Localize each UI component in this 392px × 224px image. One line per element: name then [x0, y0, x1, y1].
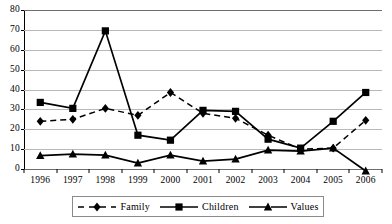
data-point-children-2003 — [264, 136, 271, 143]
x-tick-mark-1998 — [89, 169, 90, 173]
legend-label-values: Values — [291, 202, 319, 212]
x-tick-label-2002: 2002 — [226, 176, 246, 186]
x-tick-mark-2004 — [284, 169, 285, 173]
x-tick-label-2001: 2001 — [193, 176, 213, 186]
x-tick-mark-1999 — [121, 169, 122, 173]
x-tick-label-2006: 2006 — [356, 176, 376, 186]
chart-legend: FamilyChildrenValues — [72, 196, 324, 217]
data-point-family-1996 — [37, 117, 44, 126]
legend-label-family: Family — [120, 202, 150, 212]
diamond-marker-icon — [77, 201, 117, 213]
x-tick-label-2000: 2000 — [161, 176, 181, 186]
data-point-children-1998 — [102, 27, 109, 34]
y-tick-label-80: 80 — [10, 5, 20, 15]
x-tick-mark-1996 — [24, 169, 25, 173]
data-point-children-2006 — [362, 89, 369, 96]
y-tick-label-60: 60 — [10, 45, 20, 55]
data-point-family-1997 — [69, 115, 76, 124]
plot-area: 01020304050607080 1996199719981999200020… — [24, 10, 382, 169]
data-point-children-1999 — [134, 132, 141, 139]
series-children — [37, 27, 370, 151]
y-tick-label-30: 30 — [10, 105, 20, 115]
y-tick-label-0: 0 — [15, 164, 20, 174]
triangle-marker-icon — [248, 201, 288, 213]
x-tick-mark-2006 — [349, 169, 350, 173]
square-marker-icon — [159, 201, 199, 213]
data-point-family-1999 — [134, 111, 141, 120]
gridline-0 — [24, 169, 382, 170]
x-tick-label-1996: 1996 — [30, 176, 50, 186]
data-point-children-1997 — [69, 105, 76, 112]
x-tick-label-2003: 2003 — [258, 176, 278, 186]
data-point-children-2002 — [232, 108, 239, 115]
data-point-family-2000 — [167, 88, 174, 97]
y-tick-label-50: 50 — [10, 65, 20, 75]
series-layer — [24, 10, 382, 169]
data-point-children-2005 — [330, 118, 337, 125]
x-tick-mark-2000 — [154, 169, 155, 173]
line-chart: 01020304050607080 1996199719981999200020… — [0, 0, 392, 224]
x-tick-mark-end — [382, 169, 383, 173]
legend-label-children: Children — [202, 202, 239, 212]
x-tick-label-2005: 2005 — [323, 176, 343, 186]
data-point-family-2002 — [232, 114, 239, 123]
x-tick-mark-2002 — [219, 169, 220, 173]
y-tick-label-40: 40 — [10, 85, 20, 95]
x-tick-mark-2005 — [316, 169, 317, 173]
x-tick-label-1999: 1999 — [128, 176, 148, 186]
series-line-family — [40, 92, 365, 149]
legend-item-family[interactable]: Family — [77, 201, 150, 213]
series-line-children — [40, 31, 365, 148]
legend-item-children[interactable]: Children — [159, 201, 239, 213]
data-point-values-2000 — [166, 151, 174, 159]
y-tick-label-70: 70 — [10, 25, 20, 35]
x-tick-mark-2003 — [251, 169, 252, 173]
x-tick-label-2004: 2004 — [291, 176, 311, 186]
data-point-children-2001 — [199, 107, 206, 114]
data-point-values-2006 — [362, 167, 370, 175]
x-tick-label-1998: 1998 — [95, 176, 115, 186]
series-family — [37, 88, 370, 153]
legend-item-values[interactable]: Values — [248, 201, 319, 213]
y-tick-label-10: 10 — [10, 144, 20, 154]
data-point-family-1998 — [102, 104, 109, 113]
x-tick-mark-1997 — [56, 169, 57, 173]
data-point-children-2000 — [167, 137, 174, 144]
x-tick-label-1997: 1997 — [63, 176, 83, 186]
x-tick-mark-2001 — [186, 169, 187, 173]
y-tick-label-20: 20 — [10, 125, 20, 135]
data-point-children-1996 — [37, 99, 44, 106]
